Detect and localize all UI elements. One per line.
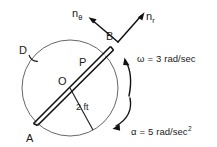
alpha-value: 5 bbox=[148, 126, 153, 137]
alpha-equals: = bbox=[140, 126, 146, 137]
omega-curved-arrow bbox=[123, 58, 131, 97]
annotation-alpha: α=5rad/sec2 bbox=[131, 125, 192, 137]
label-point-b: B bbox=[106, 30, 113, 42]
kinematics-figure: nθ nr B D P O A 2 ft ω=3rad/sec α=5rad/s… bbox=[0, 0, 217, 147]
omega-value: 3 bbox=[156, 53, 161, 64]
alpha-unit: rad/sec bbox=[156, 126, 187, 137]
alpha-exponent: 2 bbox=[188, 125, 192, 132]
label-point-p: P bbox=[79, 56, 86, 68]
label-point-o: O bbox=[58, 75, 67, 87]
omega-symbol: ω bbox=[137, 53, 145, 64]
label-point-a: A bbox=[26, 132, 34, 144]
alpha-symbol: α bbox=[131, 126, 137, 137]
bar-ab bbox=[34, 47, 114, 126]
vector-n-r-label: nr bbox=[146, 10, 155, 25]
omega-equals: = bbox=[147, 53, 153, 64]
omega-unit: rad/sec bbox=[164, 53, 195, 64]
annotation-omega: ω=3rad/sec bbox=[137, 53, 196, 64]
n-r-arrow bbox=[118, 12, 145, 42]
vector-n-theta-label: nθ bbox=[72, 7, 82, 22]
label-point-d: D bbox=[19, 44, 27, 56]
n-theta-arrow bbox=[89, 17, 119, 42]
label-radius-dimension: 2 ft bbox=[76, 102, 89, 112]
diagram-canvas: nθ nr B D P O A 2 ft ω=3rad/sec α=5rad/s… bbox=[0, 0, 217, 147]
n-r-subscript: r bbox=[152, 16, 155, 25]
n-theta-subscript: θ bbox=[78, 13, 82, 22]
